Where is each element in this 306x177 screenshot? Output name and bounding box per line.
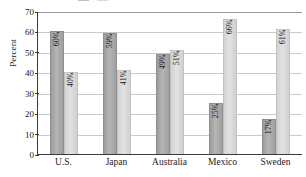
legend-swatch-series-b xyxy=(97,0,108,1)
bar-sweden-series-b[interactable]: 61% xyxy=(276,29,290,154)
y-axis-tick-60: 60 xyxy=(25,28,34,37)
bar-u-s-series-b[interactable]: 40% xyxy=(64,72,78,154)
bar-groups: 60%40%59%41%49%51%25%66%17%61% xyxy=(38,12,302,154)
bar-group-japan: 59%41% xyxy=(91,12,144,154)
plot-area: 60%40%59%41%49%51%25%66%17%61% xyxy=(37,12,302,155)
bar-group-australia: 49%51% xyxy=(144,12,197,154)
bar-value-label: 59% xyxy=(106,34,114,49)
bar-chart-figure: Percent 706050403020100 60%40%59%41%49%5… xyxy=(0,0,306,177)
bar-value-label: 25% xyxy=(212,104,220,119)
x-axis-tick-labels: U.S.JapanAustraliaMexicoSweden xyxy=(37,158,302,168)
y-axis-tick-20: 20 xyxy=(25,110,34,119)
legend-swatch-series-a xyxy=(78,0,89,1)
bar-value-label: 40% xyxy=(67,73,75,88)
bar-australia-series-a[interactable]: 49% xyxy=(156,54,170,154)
bar-japan-series-b[interactable]: 41% xyxy=(117,70,131,154)
bar-value-label: 41% xyxy=(120,71,128,86)
x-axis-tick-mexico: Mexico xyxy=(196,158,249,168)
bar-australia-series-b[interactable]: 51% xyxy=(170,50,184,154)
y-axis-tick-0: 0 xyxy=(30,151,35,160)
x-axis-tick-u-s: U.S. xyxy=(37,158,90,168)
bar-group-mexico: 25%66% xyxy=(196,12,249,154)
chart-legend xyxy=(0,0,306,4)
bar-value-label: 51% xyxy=(173,50,181,65)
x-axis-tick-japan: Japan xyxy=(90,158,143,168)
bar-mexico-series-b[interactable]: 66% xyxy=(223,19,237,154)
bar-u-s-series-a[interactable]: 60% xyxy=(50,31,64,154)
y-axis-tick-50: 50 xyxy=(25,48,34,57)
y-axis-tick-70: 70 xyxy=(25,8,34,17)
bar-value-label: 60% xyxy=(53,32,61,47)
bar-group-sweden: 17%61% xyxy=(249,12,302,154)
bar-value-label: 61% xyxy=(279,30,287,45)
bar-japan-series-a[interactable]: 59% xyxy=(103,33,117,154)
bar-mexico-series-a[interactable]: 25% xyxy=(209,103,223,154)
bar-sweden-series-a[interactable]: 17% xyxy=(262,119,276,154)
bar-value-label: 66% xyxy=(226,20,234,35)
bar-value-label: 49% xyxy=(159,55,167,70)
x-axis-tick-australia: Australia xyxy=(143,158,196,168)
y-axis-tick-30: 30 xyxy=(25,89,34,98)
bar-value-label: 17% xyxy=(265,120,273,135)
y-axis-tick-10: 10 xyxy=(25,130,34,139)
x-axis-tick-sweden: Sweden xyxy=(249,158,302,168)
y-axis-tick-labels: 706050403020100 xyxy=(14,12,34,155)
bar-group-u-s: 60%40% xyxy=(38,12,91,154)
y-axis-tick-40: 40 xyxy=(25,69,34,78)
